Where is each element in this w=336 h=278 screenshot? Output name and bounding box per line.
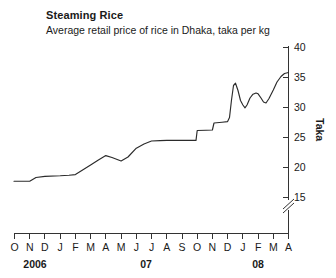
x-tick-label-6: A [99,241,113,253]
y-tick-label-40: 40 [294,41,306,53]
x-tick-label-5: M [84,241,98,253]
x-tick-label-17: M [266,241,280,253]
x-tick-label-3: J [53,241,67,253]
x-tick-label-0: O [8,241,22,253]
x-tick-label-9: J [145,241,159,253]
chart-container: Steaming Rice Average retail price of ri… [0,0,336,278]
chart-plot-area [0,0,336,278]
x-tick-label-11: S [175,241,189,253]
y-axis-title: Taka [314,118,326,141]
x-tick-label-1: N [23,241,37,253]
year-label-08: 08 [238,258,278,270]
data-series-line [14,73,289,182]
year-label-07: 07 [126,258,166,270]
x-tick-label-18: A [282,241,296,253]
x-tick-label-4: F [68,241,82,253]
y-tick-label-25: 25 [294,131,306,143]
y-tick-label-35: 35 [294,71,306,83]
x-tick-label-7: M [114,241,128,253]
x-tick-label-14: D [221,241,235,253]
x-tick-label-2: D [38,241,52,253]
y-tick-label-15: 15 [294,191,306,203]
y-tick-label-30: 30 [294,101,306,113]
x-tick-label-12: O [190,241,204,253]
year-label-2006: 2006 [15,258,55,270]
x-tick-label-10: A [160,241,174,253]
x-tick-label-15: J [236,241,250,253]
x-tick-label-13: N [205,241,219,253]
y-tick-label-20: 20 [294,161,306,173]
x-axis [14,234,289,240]
x-tick-label-8: J [129,241,143,253]
x-tick-label-16: F [251,241,265,253]
